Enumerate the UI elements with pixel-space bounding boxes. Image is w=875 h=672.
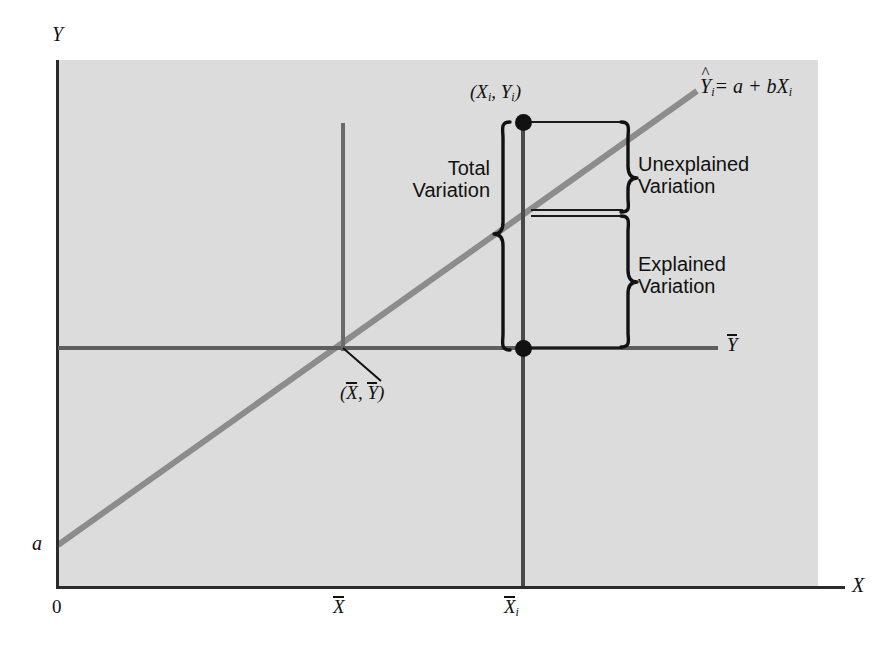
y-mean-base: Y bbox=[727, 335, 738, 354]
y-hat-base: Y bbox=[700, 76, 711, 96]
explained-variation-label: Explained Variation bbox=[638, 253, 726, 298]
xi-tick-label: Xi bbox=[504, 597, 519, 618]
obs-close-paren: ) bbox=[515, 81, 521, 102]
regression-equation-label: Yi= a + bXi bbox=[700, 76, 792, 98]
origin-label: 0 bbox=[52, 597, 62, 616]
unexplained-variation-line-2: Variation bbox=[638, 175, 749, 197]
y-axis-label: Y bbox=[52, 24, 63, 44]
y-mean-line-label: Y bbox=[727, 335, 738, 354]
mean-separator: , bbox=[358, 382, 368, 403]
explained-variation-line-2: Variation bbox=[638, 275, 726, 297]
equation-rhs-subscript: i bbox=[789, 85, 792, 99]
equation-rhs: = a + bX bbox=[714, 75, 788, 97]
figure-canvas: Y X 0 X Xi Y Yi= a + bXi a (Xi, Yi) (X, … bbox=[0, 0, 875, 672]
total-variation-line-2: Variation bbox=[360, 179, 490, 201]
unexplained-variation-label: Unexplained Variation bbox=[638, 153, 749, 198]
mean-close-paren: ) bbox=[378, 382, 384, 403]
observed-data-point bbox=[515, 114, 532, 131]
mean-x-base: X bbox=[346, 383, 358, 402]
total-variation-label: Total Variation bbox=[360, 157, 490, 202]
x-axis-label: X bbox=[852, 575, 864, 595]
explained-variation-line-1: Explained bbox=[638, 253, 726, 275]
observed-point-label: (Xi, Yi) bbox=[470, 82, 521, 103]
mean-point-leader-line bbox=[0, 0, 875, 672]
obs-x-base: X bbox=[476, 81, 488, 102]
intercept-label: a bbox=[32, 533, 42, 553]
x-mean-tick-base: X bbox=[333, 597, 345, 616]
total-variation-line-1: Total bbox=[360, 157, 490, 179]
mean-y-base: Y bbox=[367, 383, 378, 402]
obs-separator: , bbox=[491, 81, 501, 102]
obs-y-base: Y bbox=[501, 81, 512, 102]
mean-point-label: (X, Y) bbox=[340, 383, 384, 402]
fitted-point-marker bbox=[515, 340, 532, 357]
x-mean-tick-label: X bbox=[333, 597, 345, 616]
unexplained-variation-line-1: Unexplained bbox=[638, 153, 749, 175]
xi-tick-subscript: i bbox=[516, 605, 519, 619]
xi-tick-base: X bbox=[504, 597, 516, 616]
